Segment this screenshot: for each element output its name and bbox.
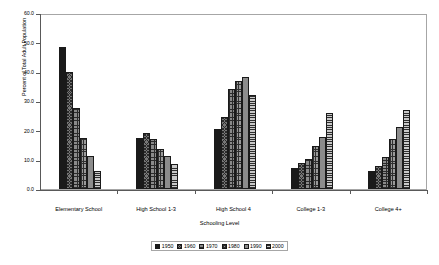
legend-item: 1990 <box>244 244 262 249</box>
legend-label: 1970 <box>206 244 218 249</box>
legend-swatch-icon <box>199 244 204 249</box>
y-axis-tick <box>36 131 40 132</box>
bar <box>249 95 256 189</box>
bar <box>164 156 171 189</box>
bar <box>312 146 319 189</box>
bar <box>235 81 242 189</box>
x-axis-line <box>40 190 427 191</box>
bar-group <box>214 15 256 189</box>
y-axis-tick-label: 50.0 <box>24 41 34 46</box>
bar <box>291 168 298 189</box>
x-axis-tick <box>427 190 428 194</box>
bar <box>375 166 382 189</box>
bar <box>157 149 164 189</box>
plot-area <box>41 15 426 189</box>
legend-swatch-icon <box>244 244 249 249</box>
legend-swatch-icon <box>266 244 271 249</box>
legend-swatch-icon <box>222 244 227 249</box>
y-axis-tick <box>36 73 40 74</box>
x-axis-title: Schooling Level <box>0 220 439 227</box>
y-axis-tick <box>36 14 40 15</box>
bar <box>403 110 410 189</box>
x-axis-category-label: High School 1-3 <box>117 206 194 213</box>
bar <box>171 164 178 189</box>
bar <box>221 117 228 189</box>
bar <box>66 72 73 189</box>
bar <box>59 47 66 189</box>
y-axis-tick-label: 0.0 <box>27 187 34 192</box>
bar <box>150 139 157 189</box>
legend: 195019601970198019902000 <box>0 241 439 251</box>
x-axis-tick <box>117 190 118 194</box>
legend-label: 1990 <box>250 244 262 249</box>
bar-group <box>59 15 101 189</box>
bar <box>396 127 403 189</box>
y-axis-tick-label: 30.0 <box>24 99 34 104</box>
x-axis-tick <box>350 190 351 194</box>
y-axis-tick-label: 10.0 <box>24 158 34 163</box>
bar <box>242 77 249 189</box>
bar-group <box>136 15 178 189</box>
legend-item: 1970 <box>199 244 217 249</box>
x-axis-tick <box>195 190 196 194</box>
x-axis-category-label: Elementary School <box>40 206 117 213</box>
legend-label: 2000 <box>272 244 284 249</box>
bar-group <box>368 15 410 189</box>
bar-group <box>291 15 333 189</box>
x-axis-tick <box>272 190 273 194</box>
bar <box>73 108 80 189</box>
y-axis-tick-label: 20.0 <box>24 129 34 134</box>
legend-item: 1960 <box>177 244 195 249</box>
legend-label: 1960 <box>184 244 196 249</box>
legend-box: 195019601970198019902000 <box>151 241 287 251</box>
bar <box>136 138 143 189</box>
bar <box>80 138 87 189</box>
bar <box>228 89 235 189</box>
legend-label: 1980 <box>228 244 240 249</box>
x-axis-category-label: High School 4 <box>195 206 272 213</box>
bar <box>214 129 221 189</box>
legend-item: 1950 <box>155 244 173 249</box>
bar <box>305 159 312 189</box>
bar <box>143 133 150 189</box>
bar <box>389 139 396 189</box>
legend-swatch-icon <box>155 244 160 249</box>
y-axis-tick <box>36 161 40 162</box>
y-axis-line <box>40 14 41 190</box>
x-axis-category-label: College 4+ <box>350 206 427 213</box>
plot-frame <box>40 14 427 190</box>
legend-item: 1980 <box>222 244 240 249</box>
legend-swatch-icon <box>177 244 182 249</box>
bar <box>382 157 389 189</box>
y-axis-tick <box>36 43 40 44</box>
bar <box>298 163 305 189</box>
y-axis-tick-label: 40.0 <box>24 70 34 75</box>
x-axis-category-label: College 1-3 <box>272 206 349 213</box>
bar-chart: Percent of Total Adult Population 0.010.… <box>0 0 439 265</box>
legend-label: 1950 <box>162 244 174 249</box>
bar <box>326 113 333 189</box>
bar <box>319 137 326 190</box>
bar <box>87 156 94 189</box>
y-axis-tick <box>36 190 40 191</box>
bar <box>94 171 101 189</box>
bar <box>368 171 375 189</box>
y-axis-tick-label: 60.0 <box>24 11 34 16</box>
legend-item: 2000 <box>266 244 284 249</box>
y-axis-tick <box>36 102 40 103</box>
